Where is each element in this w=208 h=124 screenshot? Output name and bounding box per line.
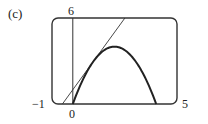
y-max-label: 6 <box>68 4 74 18</box>
viewing-window-frame <box>52 18 177 104</box>
parabola-curve <box>73 47 156 104</box>
plot-area: 6 −1 5 0 <box>0 0 208 124</box>
origin-label: 0 <box>69 107 75 121</box>
x-min-label: −1 <box>32 97 45 111</box>
x-max-label: 5 <box>182 97 188 111</box>
